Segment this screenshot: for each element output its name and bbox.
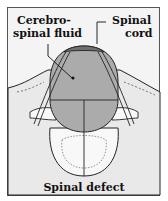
label-cord-line1: Spinal [112,14,151,27]
cord-leader-line [97,22,106,44]
label-cord-line2: cord [125,27,153,40]
csf-leader-dot [72,77,75,80]
spinal-defect-diagram: Cerebro- spinal fluid Spinal cord Spinal… [0,0,168,201]
caption: Spinal defect [43,181,125,194]
label-csf-line2: spinal fluid [13,27,82,40]
label-csf-line1: Cerebro- [17,14,71,27]
